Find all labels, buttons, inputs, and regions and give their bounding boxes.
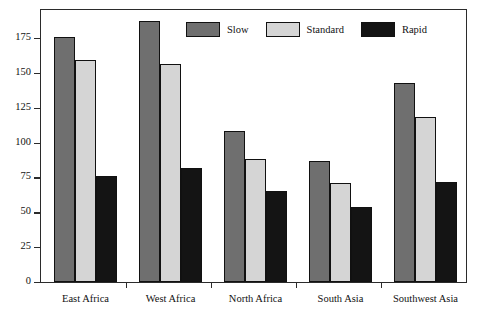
legend-swatch-slow xyxy=(186,22,220,37)
bar-slow-east-africa xyxy=(54,37,75,282)
y-axis-tick: 125 xyxy=(0,108,40,109)
x-axis-label: South Asia xyxy=(318,293,364,304)
bar-rapid-south-asia xyxy=(351,207,372,282)
x-axis-label: East Africa xyxy=(62,293,109,304)
x-axis-label: North Africa xyxy=(229,293,282,304)
legend-entry-rapid: Rapid xyxy=(361,22,427,37)
bar-rapid-east-africa xyxy=(96,176,117,282)
bar-slow-west-africa xyxy=(139,21,160,282)
y-axis-tick: 100 xyxy=(0,143,40,144)
y-axis-tick: 50 xyxy=(0,212,40,213)
bar-rapid-west-africa xyxy=(181,168,202,282)
x-axis-tick xyxy=(211,283,212,288)
bar-standard-east-africa xyxy=(75,60,96,282)
bar-standard-southwest-asia xyxy=(415,117,436,282)
y-axis-tick: 0 xyxy=(0,282,40,283)
y-axis-tick: 175 xyxy=(0,38,40,39)
bar-standard-north-africa xyxy=(245,159,266,282)
bar-chart: Percent 0255075100125150175 East AfricaW… xyxy=(0,0,477,322)
x-axis-tick xyxy=(126,283,127,288)
legend-swatch-rapid xyxy=(361,22,395,37)
bars-layer xyxy=(41,10,466,282)
y-tick-label: 25 xyxy=(21,240,32,251)
x-axis-label: Southwest Asia xyxy=(393,293,458,304)
y-tick-label: 175 xyxy=(15,31,31,42)
x-axis-label: West Africa xyxy=(146,293,196,304)
x-axis-tick xyxy=(296,283,297,288)
bar-standard-south-asia xyxy=(330,183,351,282)
bar-standard-west-africa xyxy=(160,64,181,282)
bar-rapid-southwest-asia xyxy=(436,182,457,282)
legend-label-slow: Slow xyxy=(227,24,249,35)
y-tick-label: 75 xyxy=(21,170,32,181)
y-tick-label: 50 xyxy=(21,205,32,216)
chart-legend: SlowStandardRapid xyxy=(186,22,427,37)
legend-label-standard: Standard xyxy=(307,24,344,35)
legend-entry-standard: Standard xyxy=(266,22,344,37)
bar-slow-southwest-asia xyxy=(394,83,415,282)
bar-rapid-north-africa xyxy=(266,191,287,282)
y-axis-tick: 150 xyxy=(0,73,40,74)
y-tick-label: 100 xyxy=(15,136,31,147)
legend-entry-slow: Slow xyxy=(186,22,249,37)
y-axis-tick: 75 xyxy=(0,177,40,178)
y-tick-label: 0 xyxy=(26,275,31,286)
legend-swatch-standard xyxy=(266,22,300,37)
y-tick-label: 150 xyxy=(15,66,31,77)
legend-label-rapid: Rapid xyxy=(402,24,427,35)
bar-slow-south-asia xyxy=(309,161,330,282)
y-tick-label: 125 xyxy=(15,101,31,112)
x-axis-tick xyxy=(381,283,382,288)
y-axis-tick: 25 xyxy=(0,247,40,248)
bar-slow-north-africa xyxy=(224,131,245,282)
